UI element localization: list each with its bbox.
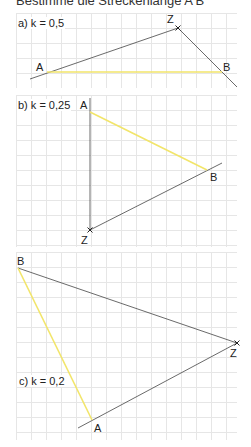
point-a-A: A bbox=[36, 61, 43, 73]
point-c-Z: Z bbox=[230, 347, 237, 359]
point-c-B: B bbox=[17, 255, 24, 267]
point-a-Z: Z bbox=[167, 13, 174, 25]
point-b-A: A bbox=[80, 99, 87, 111]
point-b-Z: Z bbox=[81, 234, 88, 246]
point-a-B: B bbox=[223, 61, 230, 73]
point-c-A: A bbox=[94, 422, 101, 434]
point-b-B: B bbox=[210, 171, 217, 183]
